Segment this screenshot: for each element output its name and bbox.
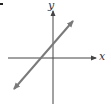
x-axis-label: x [99, 51, 105, 62]
graphed-line [14, 21, 73, 89]
coordinate-plane [0, 0, 111, 108]
graph-figure: y x [0, 0, 111, 108]
y-axis-label: y [48, 0, 54, 11]
